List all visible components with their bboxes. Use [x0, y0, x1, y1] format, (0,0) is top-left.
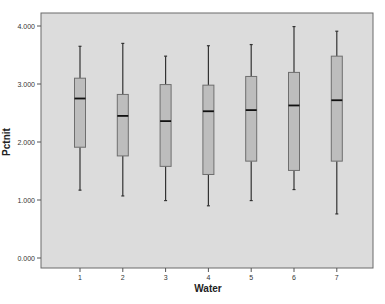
- y-tick-label: 4.000: [17, 23, 35, 30]
- x-tick-label: 5: [249, 274, 253, 281]
- iqr-box: [203, 85, 214, 174]
- iqr-box: [289, 72, 300, 170]
- x-tick-label: 1: [78, 274, 82, 281]
- y-axis-title: Pctnit: [1, 127, 12, 155]
- y-tick-label: 3.000: [17, 81, 35, 88]
- x-axis-title: Water: [194, 283, 222, 294]
- y-tick-label: 1.000: [17, 197, 35, 204]
- iqr-box: [75, 78, 86, 147]
- x-tick-label: 2: [121, 274, 125, 281]
- y-axis: 0.0001.0002.0003.0004.000: [17, 23, 41, 262]
- iqr-box: [331, 56, 342, 161]
- x-tick-label: 4: [206, 274, 210, 281]
- iqr-box: [117, 94, 128, 155]
- x-tick-label: 6: [292, 274, 296, 281]
- y-tick-label: 0.000: [17, 255, 35, 262]
- x-tick-label: 3: [164, 274, 168, 281]
- x-tick-label: 7: [335, 274, 339, 281]
- x-axis: 1234567: [78, 268, 339, 281]
- boxplot-chart: 0.0001.0002.0003.0004.000 1234567 Water …: [0, 0, 385, 304]
- iqr-box: [246, 76, 257, 161]
- iqr-box: [160, 85, 171, 167]
- y-tick-label: 2.000: [17, 139, 35, 146]
